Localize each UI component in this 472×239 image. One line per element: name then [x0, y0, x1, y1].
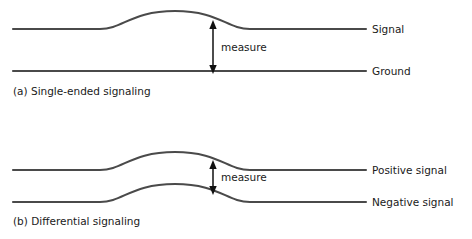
measure-arrow-single-ended: [209, 20, 216, 74]
label-negative-signal: Negative signal: [372, 196, 454, 208]
trace-signal: [13, 11, 366, 29]
measure-label-single-ended: measure: [221, 41, 267, 53]
trace-positive-signal: [13, 152, 366, 170]
label-positive-signal: Positive signal: [372, 164, 447, 176]
caption-single-ended: (a) Single-ended signaling: [13, 85, 151, 97]
label-signal: Signal: [372, 23, 404, 35]
caption-differential: (b) Differential signaling: [13, 215, 140, 227]
label-ground: Ground: [372, 65, 411, 77]
signaling-diagram: measure Signal Ground (a) Single-ended s…: [0, 0, 472, 239]
measure-label-differential: measure: [221, 171, 267, 183]
trace-negative-signal: [13, 184, 366, 202]
